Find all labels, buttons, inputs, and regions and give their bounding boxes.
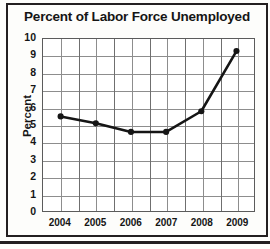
data-series-line xyxy=(43,39,254,211)
y-tick-label: 4 xyxy=(10,135,36,147)
y-tick-label: 2 xyxy=(10,170,36,182)
y-tick-label: 0 xyxy=(10,205,36,217)
y-tick-label: 3 xyxy=(10,153,36,165)
data-point-marker xyxy=(163,129,169,135)
y-tick-label: 1 xyxy=(10,188,36,200)
data-point-marker xyxy=(233,48,239,54)
chart-title: Percent of Labor Force Unemployed xyxy=(14,9,260,24)
y-tick-label: 5 xyxy=(10,118,36,130)
plot-area xyxy=(42,38,255,212)
bottom-rule xyxy=(0,241,270,244)
data-point-marker xyxy=(58,113,64,119)
y-tick-label: 8 xyxy=(10,66,36,78)
data-point-marker xyxy=(93,120,99,126)
chart-figure: Percent of Labor Force Unemployed Percen… xyxy=(0,0,270,249)
x-tick-label: 2009 xyxy=(215,217,259,228)
y-tick-label: 10 xyxy=(10,31,36,43)
data-point-marker xyxy=(128,129,134,135)
y-tick-label: 9 xyxy=(10,48,36,60)
y-tick-label: 7 xyxy=(10,83,36,95)
y-tick-label: 6 xyxy=(10,101,36,113)
data-point-marker xyxy=(198,108,204,114)
